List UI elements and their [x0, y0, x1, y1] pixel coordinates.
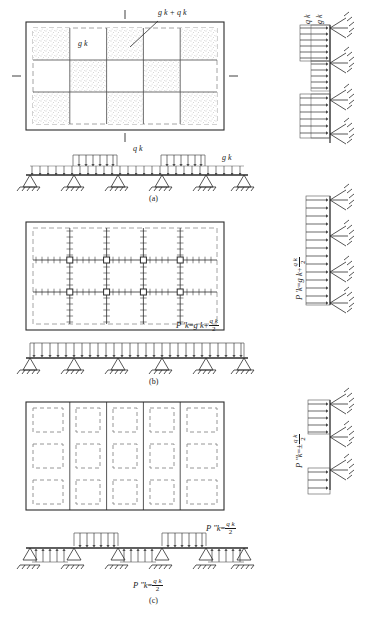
- panel-c-plan: [26, 402, 224, 510]
- formula-b-column-frac-den: 2: [300, 257, 307, 267]
- formula-c-column: P ″k=±q k2: [292, 434, 308, 468]
- caption-a: (a): [149, 194, 158, 203]
- formula-c-below-frac-num: q k: [153, 577, 161, 585]
- panel-c-beam: [17, 533, 254, 569]
- formula-c-below: P ″k=q k2: [133, 578, 163, 594]
- label-a-column-dead: g k: [316, 14, 324, 24]
- formula-b-column-rhs-first: g k: [294, 272, 304, 282]
- caption-b-text: (b): [149, 377, 158, 386]
- formula-b-fraction: q k2: [209, 318, 219, 334]
- caption-c: (c): [149, 596, 158, 605]
- formula-c-column-fraction: q k2: [292, 434, 308, 444]
- formula-b-column-plus: +: [294, 267, 304, 272]
- label-a-beam-dead-text: g k: [222, 153, 232, 162]
- caption-a-text: (a): [149, 194, 158, 203]
- panel-a-drawing: [0, 0, 365, 618]
- label-a-beam-dead: g k: [222, 154, 232, 162]
- formula-b-frac-num: q k: [210, 317, 218, 325]
- formula-b-column-lhs: P ′k: [294, 287, 304, 300]
- label-a-dead-load-plan: g k: [78, 40, 88, 48]
- formula-c-column-eq: =: [294, 449, 304, 454]
- formula-c-above-frac-num: q k: [226, 520, 234, 528]
- caption-b: (b): [149, 377, 158, 386]
- panel-b-beam: [17, 343, 254, 374]
- formula-c-column-frac-den: 2: [300, 434, 307, 444]
- formula-b-beam: P ′k=g k+q k2: [176, 318, 219, 334]
- panel-a-plan: [12, 10, 238, 142]
- label-a-beam-live: q k: [133, 145, 143, 153]
- label-a-column-dead-text: g k: [315, 14, 324, 24]
- formula-c-below-lhs: P ″k: [133, 580, 147, 590]
- formula-b-column: P ′k=g k+q k2: [292, 257, 308, 300]
- formula-c-above-fraction: q k2: [225, 521, 235, 537]
- formula-c-column-pm: ±: [294, 444, 304, 449]
- formula-b-rhs-first: g k: [194, 320, 204, 330]
- formula-b-lhs: P ′k: [176, 320, 189, 330]
- figure-root: g k + q k g k q k g k q k g k (a) P ′k=g…: [0, 0, 365, 618]
- formula-c-below-frac-den: 2: [152, 586, 162, 593]
- formula-c-column-lhs: P ″k: [294, 454, 304, 468]
- label-a-column-live: q k: [304, 14, 312, 24]
- panel-c-column: [308, 388, 354, 494]
- formula-b-column-eq: =: [294, 282, 304, 287]
- panel-b-plan: [26, 222, 224, 330]
- label-a-column-live-text: q k: [303, 14, 312, 24]
- formula-b-column-frac-num: q k: [291, 258, 299, 266]
- formula-c-above: P ″k=q k2: [206, 521, 236, 537]
- label-a-total-load: g k + q k: [158, 9, 187, 17]
- formula-b-column-fraction: q k2: [292, 257, 308, 267]
- formula-c-below-fraction: q k2: [152, 578, 162, 594]
- formula-c-column-frac-num: q k: [291, 435, 299, 443]
- panel-a-beam: [17, 155, 254, 191]
- formula-b-frac-den: 2: [209, 326, 219, 333]
- formula-c-above-frac-den: 2: [225, 529, 235, 536]
- panel-b-column: [306, 184, 354, 313]
- caption-c-text: (c): [149, 596, 158, 605]
- formula-c-above-lhs: P ″k: [206, 523, 220, 533]
- panel-a-column: [300, 12, 354, 144]
- label-a-dead-load-plan-text: g k: [78, 39, 88, 48]
- label-a-total-load-text: g k + q k: [158, 8, 187, 17]
- label-a-beam-live-text: q k: [133, 144, 143, 153]
